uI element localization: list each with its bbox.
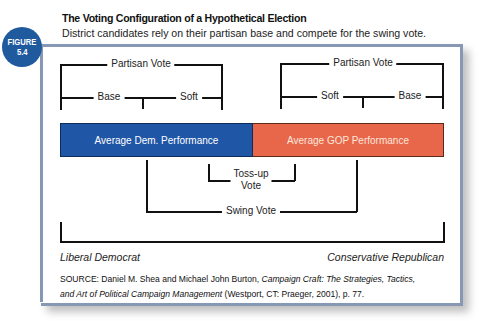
source-line-1: SOURCE: Daniel M. Shea and Michael John … bbox=[60, 273, 415, 284]
left-partisan-vote-label: Partisan Vote bbox=[107, 58, 174, 70]
axis-right-label: Conservative Republican bbox=[327, 251, 444, 263]
axis-left-label: Liberal Democrat bbox=[60, 251, 140, 263]
right-soft-label: Soft bbox=[317, 90, 343, 102]
tossup-label: Toss-up Vote bbox=[230, 168, 271, 192]
swing-vote-label: Swing Vote bbox=[222, 205, 280, 217]
figure-badge-number: 5.4 bbox=[17, 47, 28, 57]
figure-badge: FIGURE 5.4 bbox=[2, 27, 42, 67]
figure-subtitle: District candidates rely on their partis… bbox=[62, 27, 426, 39]
figure-badge-label: FIGURE bbox=[8, 37, 37, 47]
dem-performance-bar: Average Dem. Performance bbox=[60, 123, 253, 157]
left-base-label: Base bbox=[94, 91, 125, 103]
gop-performance-bar: Average GOP Performance bbox=[253, 123, 444, 157]
left-soft-label: Soft bbox=[176, 91, 202, 103]
frame-top-rule bbox=[41, 44, 463, 47]
right-partisan-vote-label: Partisan Vote bbox=[329, 57, 396, 69]
right-base-label: Base bbox=[395, 90, 426, 102]
frame-left-rule bbox=[40, 44, 43, 302]
dem-performance-label: Average Dem. Performance bbox=[95, 135, 219, 146]
source-line-2: and Art of Political Campaign Management… bbox=[60, 288, 364, 299]
gop-performance-label: Average GOP Performance bbox=[287, 135, 409, 146]
figure-title: The Voting Configuration of a Hypothetic… bbox=[62, 12, 306, 24]
